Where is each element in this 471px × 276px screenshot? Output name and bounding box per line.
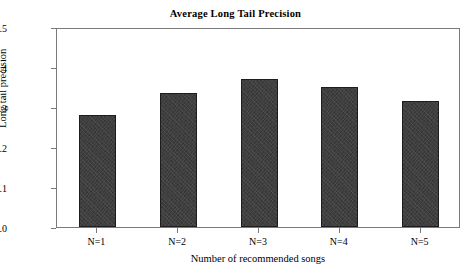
bar-n1: [79, 115, 116, 227]
x-tick-label: N=3: [228, 236, 288, 247]
y-tick-label: 0.2: [0, 143, 7, 154]
y-tick-label: 0.5: [0, 23, 7, 34]
bar-n4: [321, 87, 358, 227]
x-tick-mark: [420, 228, 421, 233]
plot-area: [56, 28, 460, 228]
y-tick-label: 0.3: [0, 103, 7, 114]
x-axis-label: Number of recommended songs: [56, 253, 460, 264]
chart-title: Average Long Tail Precision: [0, 8, 471, 19]
bar-chart-figure: Average Long Tail Precision Long tail pr…: [0, 0, 471, 276]
bar-n3: [241, 79, 278, 227]
y-axis-label: Long tail precision: [0, 49, 8, 128]
x-tick-mark: [96, 228, 97, 233]
y-tick-label: 0.4: [0, 63, 7, 74]
y-tick-mark: [51, 228, 56, 229]
x-tick-label: N=2: [147, 236, 207, 247]
x-tick-mark: [258, 228, 259, 233]
y-tick-label: 0.1: [0, 183, 7, 194]
x-tick-label: N=5: [390, 236, 450, 247]
x-tick-mark: [177, 228, 178, 233]
bar-n5: [402, 101, 439, 227]
bar-n2: [160, 93, 197, 227]
x-tick-mark: [339, 228, 340, 233]
x-tick-label: N=4: [309, 236, 369, 247]
y-tick-label: 0.0: [0, 223, 7, 234]
x-tick-label: N=1: [66, 236, 126, 247]
